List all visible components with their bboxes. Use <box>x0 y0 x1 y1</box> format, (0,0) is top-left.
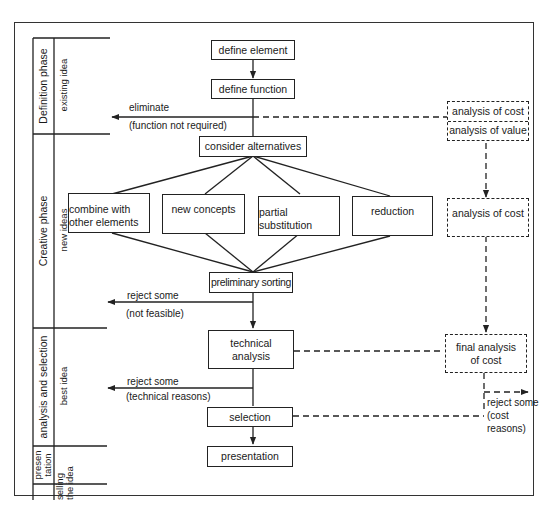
define-function-box: define function <box>211 79 295 99</box>
reject-cost-line2: (cost <box>487 409 539 422</box>
technical-analysis-box: technical analysis <box>208 330 294 369</box>
final-analysis-of-cost-box: final analysis of cost <box>445 334 527 373</box>
phase-analysis-label: analysis and selection <box>37 327 49 447</box>
alternative-partial-line1: partial <box>259 206 288 219</box>
reject-not-feasible-label: reject some <box>127 290 179 302</box>
eliminate-reason-label: (function not required) <box>129 120 227 132</box>
alternative-partial-line2: substitution <box>259 219 312 232</box>
selection-box: selection <box>207 407 293 427</box>
diagram-connectors <box>0 0 557 518</box>
reject-cost-line3: reasons) <box>487 422 539 435</box>
analysis-of-value-label: analysis of value <box>448 121 528 141</box>
alternative-combine-line2: other elements <box>69 216 138 229</box>
phase-definition-sub-label: existing idea <box>59 35 69 135</box>
technical-analysis-line2: analysis <box>232 350 270 363</box>
phase-definition-label: Definition phase <box>37 36 49 136</box>
alternative-partial-substitution-box: partial substitution <box>258 196 340 236</box>
alternative-new-concepts-box: new concepts <box>162 194 245 234</box>
reject-cost-line1: reject some <box>487 396 539 409</box>
phase-analysis-sub-label: best idea <box>59 336 69 436</box>
eliminate-label: eliminate <box>129 102 169 114</box>
analysis-of-cost-label: analysis of cost <box>448 102 528 121</box>
alternative-combine-line1: combine with <box>69 203 130 216</box>
preliminary-sorting-box: preliminary sorting <box>209 272 293 293</box>
phase-presentation-sub-label: selling the idea <box>55 430 75 500</box>
presentation-box: presentation <box>207 446 293 467</box>
phase-presentation-label: presen tation <box>33 430 53 500</box>
analysis-of-cost-2-label: analysis of cost <box>452 207 524 220</box>
alternative-new-concepts-label: new concepts <box>171 203 235 216</box>
phase-presentation-sub-line2: the idea <box>65 430 75 500</box>
analysis-of-cost-box: analysis of cost <box>447 198 529 237</box>
consider-alternatives-box: consider alternatives <box>199 136 307 157</box>
phase-creative-label: Creative phase <box>37 181 49 281</box>
alternative-reduction-label: reduction <box>371 205 414 218</box>
phase-presentation-line2: tation <box>43 430 53 500</box>
define-element-box: define element <box>211 40 295 60</box>
cost-value-analysis-box: analysis of cost analysis of value <box>447 101 529 141</box>
final-analysis-line2: of cost <box>471 354 502 367</box>
technical-analysis-line1: technical <box>230 337 271 350</box>
final-analysis-line1: final analysis <box>456 341 516 354</box>
reject-technical-label: reject some <box>127 376 179 388</box>
reject-technical-reason: (technical reasons) <box>126 391 210 403</box>
reject-not-feasible-reason: (not feasible) <box>126 308 184 320</box>
reject-cost-label: reject some (cost reasons) <box>487 396 539 435</box>
alternative-combine-box: combine with other elements <box>68 193 150 233</box>
alternative-reduction-box: reduction <box>352 196 433 236</box>
